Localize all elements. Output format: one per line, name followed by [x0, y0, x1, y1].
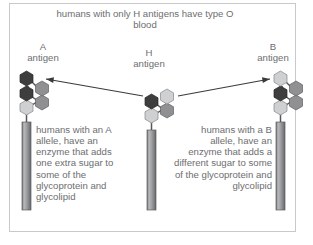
paragraph-a-allele: humans with an A allele, have an enzyme … — [36, 124, 130, 202]
b-antigen-structure — [274, 71, 303, 210]
a-sugar-2 — [20, 86, 33, 101]
b-sugar-3-terminal — [274, 71, 287, 86]
label-h-antigen: Hantigen — [118, 48, 180, 69]
a-sugar-3-terminal — [20, 71, 33, 86]
arrow-h-to-b — [178, 77, 270, 96]
h-antigen-structure — [145, 89, 174, 210]
h-sugar-1 — [145, 108, 158, 123]
h-antigen-stem — [147, 130, 156, 210]
a-sugar-4 — [36, 95, 49, 110]
label-b-antigen: Bantigen — [242, 42, 304, 63]
arrow-h-to-a — [46, 77, 143, 96]
abo-antigen-artwork — [0, 0, 313, 245]
b-sugar-5 — [290, 81, 303, 96]
b-sugar-2 — [274, 86, 287, 101]
caption-type-o-blood: humans with only H antigens have type O … — [55, 9, 235, 30]
a-sugar-1 — [20, 100, 33, 115]
b-sugar-1 — [274, 100, 287, 115]
h-sugar-2 — [145, 94, 158, 109]
label-a-antigen: Aantigen — [12, 42, 74, 63]
a-antigen-stem — [22, 122, 31, 210]
b-antigen-stem — [276, 122, 285, 210]
h-sugar-4 — [161, 89, 174, 104]
a-sugar-5 — [36, 81, 49, 96]
h-sugar-3 — [161, 103, 174, 118]
b-sugar-4 — [290, 95, 303, 110]
paragraph-b-allele: humans with a B allele, have an enzyme t… — [174, 124, 272, 191]
